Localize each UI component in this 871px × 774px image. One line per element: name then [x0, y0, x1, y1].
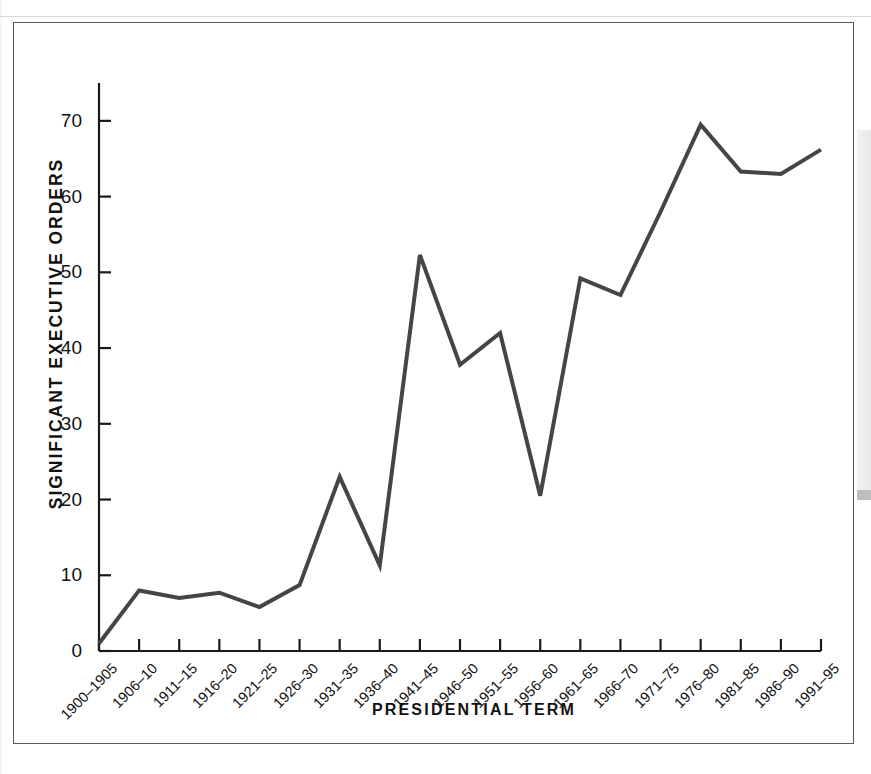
data-series-line — [99, 125, 821, 644]
line-chart: SIGNIFICANT EXECUTIVE ORDERS 01020304050… — [14, 23, 855, 745]
plot-svg — [14, 23, 855, 745]
page-top-rule-artifact — [0, 16, 871, 17]
page-right-edge-artifact — [857, 130, 871, 490]
y-axis-ticks — [99, 121, 111, 651]
figure-frame: SIGNIFICANT EXECUTIVE ORDERS 01020304050… — [13, 22, 854, 744]
page-left-edge-artifact — [0, 0, 2, 774]
page-right-edge-artifact-secondary — [857, 490, 871, 500]
x-axis-ticks — [99, 639, 821, 651]
x-axis-title: PRESIDENTIAL TERM — [194, 701, 754, 719]
